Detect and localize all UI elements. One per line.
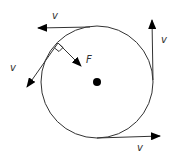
velocity-label-bottom: v (137, 142, 144, 153)
force-label: F (86, 54, 92, 65)
circular-motion-diagram: v v F v v (0, 0, 175, 162)
velocity-vector-left (27, 43, 58, 87)
center-point (93, 78, 101, 86)
velocity-label-left: v (10, 62, 17, 73)
force-vector (55, 43, 82, 66)
velocity-label-top: v (52, 10, 59, 21)
velocity-label-right: v (161, 34, 168, 45)
